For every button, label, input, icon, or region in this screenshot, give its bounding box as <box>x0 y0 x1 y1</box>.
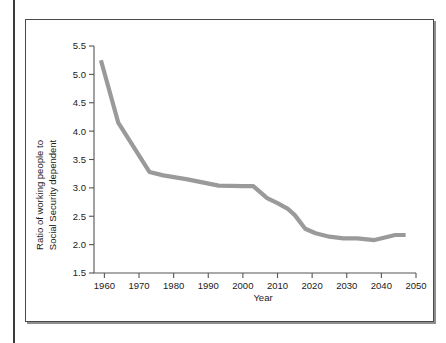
y-tick-label: 4.5 <box>73 97 86 108</box>
x-tick-label: 2050 <box>405 280 426 291</box>
y-tick-label: 1.5 <box>73 267 86 278</box>
x-tick-label: 2030 <box>336 280 357 291</box>
page-edge-rule <box>13 0 15 343</box>
y-tick-label: 2.0 <box>73 239 86 250</box>
y-tick-label: 5.5 <box>73 40 86 51</box>
y-axis-title: Ratio of working people to Social Securi… <box>34 139 58 250</box>
y-tick-label: 3.0 <box>73 182 86 193</box>
x-tick-label: 1960 <box>94 280 115 291</box>
y-axis-title-line-2: Social Security dependent <box>47 139 58 250</box>
y-tick-label: 4.0 <box>73 126 86 137</box>
x-tick-label: 1990 <box>198 280 219 291</box>
line-chart: Ratio of working people to Social Securi… <box>26 20 433 321</box>
x-tick-label: 2040 <box>371 280 392 291</box>
x-axis-title: Year <box>253 292 272 303</box>
x-tick-label: 1970 <box>128 280 149 291</box>
x-tick-label: 2020 <box>302 280 323 291</box>
y-axis-title-line-1: Ratio of working people to <box>34 140 45 250</box>
y-axis-ticks: 1.52.02.53.03.54.04.55.05.5 <box>73 40 94 278</box>
y-tick-label: 5.0 <box>73 69 86 80</box>
x-tick-label: 2010 <box>267 280 288 291</box>
y-tick-label: 2.5 <box>73 211 86 222</box>
figure-panel: Ratio of working people to Social Securi… <box>25 19 434 322</box>
x-tick-label: 2000 <box>232 280 253 291</box>
x-tick-label: 1980 <box>163 280 184 291</box>
data-series-line <box>101 60 406 240</box>
y-tick-label: 3.5 <box>73 154 86 165</box>
x-axis-ticks: 1960197019801990200020102020203020402050 <box>94 273 427 291</box>
